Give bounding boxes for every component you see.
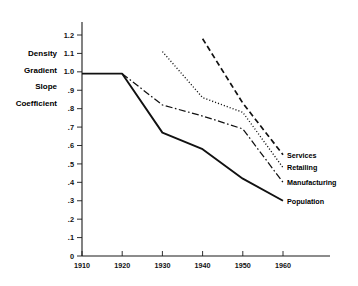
- series-label-manufacturing: Manufacturing: [287, 178, 337, 187]
- series-label-population: Population: [287, 197, 324, 206]
- x-tick-label: 1910: [74, 261, 90, 270]
- y-tick-label: .8: [68, 104, 74, 113]
- chart-series-labels: PopulationManufacturingRetailingServices: [287, 151, 337, 206]
- y-tick-label: .9: [68, 86, 74, 95]
- x-axis-ticks: 191019201930194019501960: [74, 251, 291, 270]
- series-label-services: Services: [287, 151, 317, 160]
- series-line-services: [203, 39, 283, 155]
- y-tick-label: .2: [68, 215, 74, 224]
- x-tick-label: 1960: [275, 261, 291, 270]
- x-tick-label: 1940: [195, 261, 211, 270]
- y-tick-label: .7: [68, 123, 74, 132]
- y-axis-title-line: Gradient: [24, 66, 57, 75]
- y-tick-label: .1: [68, 233, 74, 242]
- y-axis-title-line: Density: [28, 49, 57, 58]
- chart-axes: [82, 22, 330, 256]
- chart-container: 0.1.2.3.4.5.6.7.8.91.01.11.2 19101920193…: [0, 0, 358, 286]
- x-tick-label: 1920: [114, 261, 130, 270]
- y-tick-label: .6: [68, 141, 74, 150]
- y-tick-label: .4: [68, 178, 75, 187]
- x-tick-label: 1930: [154, 261, 170, 270]
- y-axis-title-line: Slope: [35, 82, 57, 91]
- density-gradient-line-chart: 0.1.2.3.4.5.6.7.8.91.01.11.2 19101920193…: [0, 0, 358, 286]
- series-line-population: [82, 74, 283, 201]
- y-tick-label: 1.1: [64, 49, 74, 58]
- y-tick-label: .3: [68, 196, 74, 205]
- x-tick-label: 1950: [235, 261, 251, 270]
- y-tick-label: 0: [70, 252, 74, 261]
- y-axis-title-line: Coefficient: [16, 99, 58, 108]
- y-tick-label: 1.2: [64, 31, 74, 40]
- chart-series-group: [82, 39, 283, 201]
- y-tick-label: 1.0: [64, 67, 74, 76]
- y-axis-title: DensityGradientSlopeCoefficient: [16, 49, 58, 107]
- y-axis-ticks: 0.1.2.3.4.5.6.7.8.91.01.11.2: [64, 31, 82, 261]
- series-label-retailing: Retailing: [287, 163, 317, 172]
- series-line-manufacturing: [122, 74, 283, 183]
- y-tick-label: .5: [68, 160, 74, 169]
